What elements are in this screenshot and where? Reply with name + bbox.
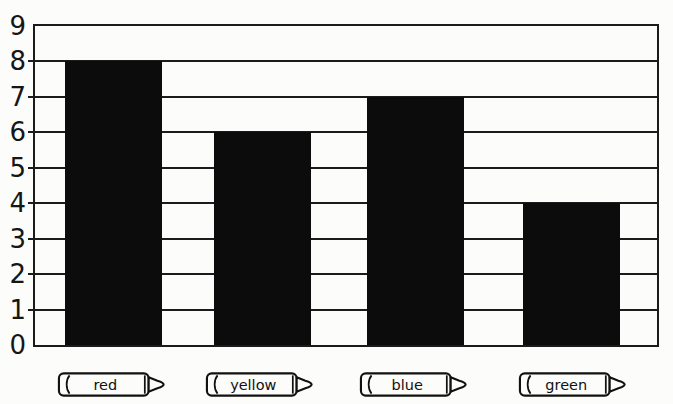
- bar-green: [523, 203, 620, 345]
- crayon-icon: yellow: [205, 371, 315, 398]
- bar-blue: [367, 97, 464, 345]
- crayon-icon-yellow: yellow: [205, 371, 315, 398]
- crayon-icon: red: [57, 371, 167, 398]
- crayon-icon-blue: blue: [359, 371, 469, 398]
- crayon-icon: green: [518, 371, 628, 398]
- y-axis-tick: [28, 167, 33, 169]
- y-axis-tick-label: 2: [0, 261, 26, 287]
- y-axis-tick: [28, 60, 33, 62]
- y-axis-tick: [28, 96, 33, 98]
- y-axis-tick: [28, 238, 33, 240]
- crayon-icon: blue: [359, 371, 469, 398]
- crayon-icon-green: green: [518, 371, 628, 398]
- category-label: red: [93, 377, 117, 393]
- plot-area: [33, 24, 659, 347]
- y-axis-tick-label: 5: [0, 155, 26, 181]
- bar-yellow: [214, 132, 311, 345]
- y-axis-tick-label: 0: [0, 332, 26, 358]
- category-label: green: [545, 377, 587, 393]
- crayon-icon-red: red: [57, 371, 167, 398]
- bar-chart-worksheet: 9876543210 redyellowbluegreen: [0, 0, 673, 404]
- bar-red: [65, 61, 162, 345]
- y-axis-tick: [28, 202, 33, 204]
- y-axis-tick-label: 1: [0, 297, 26, 323]
- y-axis-tick-label: 6: [0, 119, 26, 145]
- y-axis-tick-label: 3: [0, 226, 26, 252]
- y-axis-tick-label: 9: [0, 13, 26, 39]
- category-label: blue: [392, 377, 423, 393]
- y-axis-tick: [28, 273, 33, 275]
- category-label: yellow: [230, 377, 276, 393]
- y-axis-tick-label: 8: [0, 48, 26, 74]
- y-axis-tick-label: 4: [0, 190, 26, 216]
- y-axis-tick-label: 7: [0, 84, 26, 110]
- y-axis-tick: [28, 309, 33, 311]
- y-axis-tick: [28, 131, 33, 133]
